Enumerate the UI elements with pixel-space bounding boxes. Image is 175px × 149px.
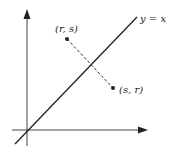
point-r-s — [65, 37, 69, 41]
point-s-r — [111, 86, 115, 90]
y-axis-arrow-icon — [24, 9, 31, 19]
identity-line — [15, 17, 137, 144]
point-b-label: (s, r) — [119, 84, 143, 95]
x-axis-arrow-icon — [138, 127, 148, 134]
reflection-diagram: y = x (r, s) (s, r) — [0, 0, 175, 149]
point-a-label: (r, s) — [55, 23, 78, 34]
reflection-segment — [67, 39, 113, 88]
line-label: y = x — [139, 13, 166, 24]
